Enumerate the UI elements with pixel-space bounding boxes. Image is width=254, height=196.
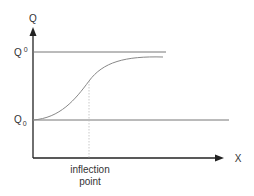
s-curve <box>33 57 163 120</box>
x-axis-arrow-icon <box>215 155 224 162</box>
lower-level-label: Q0 <box>14 114 27 127</box>
upper-level-label: Q0 <box>14 46 28 58</box>
y-axis-label: Q <box>29 13 37 24</box>
y-axis-arrow-icon <box>30 27 37 36</box>
inflection-label-line1: inflection <box>70 164 109 175</box>
logistic-curve-diagram: Q X Q0 Q0 inflection point <box>0 0 254 196</box>
inflection-label-line2: point <box>79 176 101 187</box>
x-axis-label: X <box>235 153 242 164</box>
